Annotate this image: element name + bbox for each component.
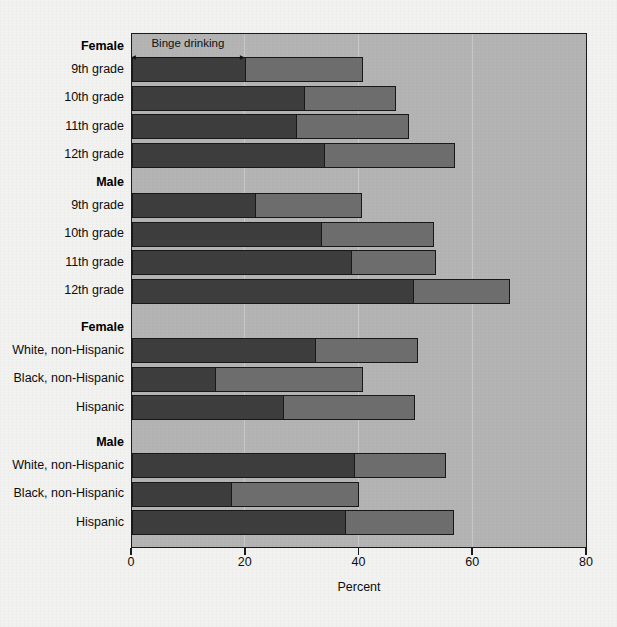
row-label: 9th grade — [0, 63, 124, 76]
bar-row — [132, 114, 588, 139]
bar-segment-binge — [132, 453, 356, 478]
bar-row — [132, 482, 588, 507]
bar-segment-binge — [132, 482, 232, 507]
bar-segment-current — [354, 453, 446, 478]
row-label: White, non-Hispanic — [0, 459, 124, 472]
bar-segment-current — [324, 143, 455, 168]
bar-segment-binge — [132, 510, 346, 535]
bar-segment-current — [345, 510, 454, 535]
row-label: Black, non-Hispanic — [0, 372, 124, 385]
bar-segment-binge — [132, 114, 297, 139]
row-label: Hispanic — [0, 516, 124, 529]
bar-segment-binge — [132, 367, 216, 392]
bar-segment-current — [215, 367, 364, 392]
bar-segment-binge — [132, 222, 323, 247]
row-label: 12th grade — [0, 284, 124, 297]
group-header-female-0: Female — [0, 40, 124, 53]
row-label: 12th grade — [0, 148, 124, 161]
group-header-male-1: Male — [0, 176, 124, 189]
bar-segment-current — [245, 57, 363, 82]
x-tick — [130, 548, 132, 555]
bar-segment-binge — [132, 86, 305, 111]
row-label: 11th grade — [0, 256, 124, 269]
bar-segment-binge — [132, 395, 284, 420]
bar-segment-binge — [132, 250, 353, 275]
bar-segment-binge — [132, 143, 325, 168]
bar-segment-current — [413, 279, 510, 304]
x-axis-title: Percent — [131, 580, 587, 594]
bar-row — [132, 395, 588, 420]
bar-segment-current — [283, 395, 415, 420]
group-header-male-3: Male — [0, 436, 124, 449]
bar-row — [132, 193, 588, 218]
x-tick — [471, 548, 473, 555]
annotation-double-arrow — [131, 53, 245, 62]
bar-row — [132, 250, 588, 275]
x-tick — [244, 548, 246, 555]
bar-row — [132, 367, 588, 392]
annotation-label: Binge drinking — [131, 38, 245, 50]
bar-row — [132, 338, 588, 363]
bar-row — [132, 143, 588, 168]
bar-row — [132, 510, 588, 535]
bar-segment-current — [296, 114, 409, 139]
binge-drinking-annotation: Binge drinking — [131, 38, 245, 64]
bar-row — [132, 222, 588, 247]
row-label: 10th grade — [0, 227, 124, 240]
x-tick — [585, 548, 587, 555]
bar-segment-current — [321, 222, 434, 247]
x-tick — [358, 548, 360, 555]
row-label: 9th grade — [0, 199, 124, 212]
x-tick-label: 40 — [339, 556, 379, 569]
bar-segment-binge — [132, 338, 316, 363]
bar-row — [132, 453, 588, 478]
chart-page: Binge drinking Female9th grade10th grade… — [0, 0, 617, 627]
plot-area — [131, 33, 587, 548]
bar-segment-current — [255, 193, 361, 218]
bar-segment-current — [231, 482, 360, 507]
row-label: 11th grade — [0, 120, 124, 133]
row-label: White, non-Hispanic — [0, 344, 124, 357]
group-header-female-2: Female — [0, 321, 124, 334]
row-label: Black, non-Hispanic — [0, 487, 124, 500]
row-label: Hispanic — [0, 401, 124, 414]
x-tick-label: 60 — [452, 556, 492, 569]
bar-segment-current — [315, 338, 418, 363]
x-tick-label: 20 — [225, 556, 265, 569]
bar-segment-current — [304, 86, 396, 111]
bar-row — [132, 86, 588, 111]
bar-segment-binge — [132, 193, 257, 218]
row-label: 10th grade — [0, 91, 124, 104]
x-tick-label: 0 — [111, 556, 151, 569]
bar-segment-current — [351, 250, 435, 275]
bar-row — [132, 279, 588, 304]
x-tick-label: 80 — [566, 556, 606, 569]
bar-segment-binge — [132, 279, 414, 304]
